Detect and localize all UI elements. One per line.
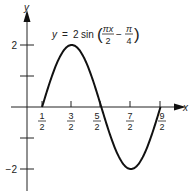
svg-text:2: 2 xyxy=(105,36,110,46)
x-ticks: 1 2 3 2 5 2 7 2 9 2 xyxy=(38,101,166,132)
x-tick-label-3-halves: 3 2 xyxy=(67,111,75,132)
svg-text:2: 2 xyxy=(159,122,164,132)
svg-text:5: 5 xyxy=(94,111,99,121)
svg-text:π: π xyxy=(126,24,133,34)
svg-text:sin: sin xyxy=(81,29,94,40)
svg-text:y: y xyxy=(51,29,58,40)
y-tick-label-neg2: −2 xyxy=(6,164,18,175)
x-tick-label-7-halves: 7 2 xyxy=(126,111,134,132)
svg-text:2: 2 xyxy=(68,122,73,132)
svg-text:=: = xyxy=(62,29,68,40)
svg-text:2: 2 xyxy=(127,122,132,132)
svg-text:9: 9 xyxy=(159,111,164,121)
svg-text:1: 1 xyxy=(39,111,44,121)
x-axis-label: x xyxy=(182,102,189,113)
sine-chart: y x 2 −2 1 2 3 2 5 2 7 xyxy=(0,0,190,191)
svg-text:2: 2 xyxy=(73,29,79,40)
svg-text:2: 2 xyxy=(94,122,99,132)
svg-text:3: 3 xyxy=(68,111,73,121)
svg-text:−: − xyxy=(116,29,122,40)
svg-text:πx: πx xyxy=(103,24,114,34)
equation-label: y = 2 sin ( πx 2 − π 4 ) xyxy=(51,24,140,46)
right-paren: ) xyxy=(134,25,140,44)
x-tick-label-5-halves: 5 2 xyxy=(93,111,101,132)
svg-text:2: 2 xyxy=(39,122,44,132)
x-tick-label-half: 1 2 xyxy=(38,111,46,132)
svg-text:4: 4 xyxy=(126,36,131,46)
y-axis-label: y xyxy=(23,2,30,13)
svg-text:7: 7 xyxy=(127,111,132,121)
y-tick-label-2: 2 xyxy=(11,40,17,51)
